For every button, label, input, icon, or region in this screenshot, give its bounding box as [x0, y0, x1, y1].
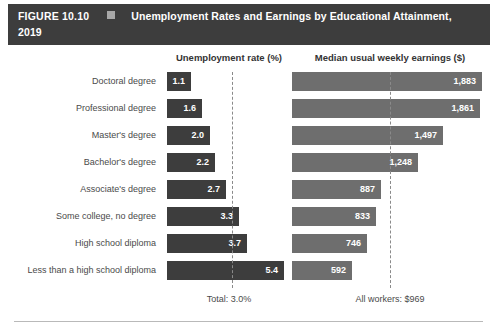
earnings-average-reference-line — [390, 72, 391, 288]
figure-header-bar: FIGURE 10.10 Unemployment Rates and Earn… — [8, 4, 490, 45]
figure-title-line-2: 2019 — [18, 26, 480, 40]
unemployment-bar: 5.4 — [167, 261, 284, 280]
unemployment-total-label: Total: 3.0% — [167, 294, 291, 304]
unemployment-bar: 2.0 — [167, 126, 210, 145]
chart-row: Some college, no degree3.3833 — [0, 207, 497, 226]
category-label: Doctoral degree — [0, 72, 156, 91]
category-label: Some college, no degree — [0, 207, 156, 226]
unemployment-bar: 3.7 — [167, 234, 247, 253]
chart-row: High school diploma3.7746 — [0, 234, 497, 253]
category-label: High school diploma — [0, 234, 156, 253]
column-heading-earnings: Median usual weekly earnings ($) — [292, 52, 488, 63]
column-heading-unemployment: Unemployment rate (%) — [167, 52, 291, 63]
earnings-total-label: All workers: $969 — [292, 294, 488, 304]
category-label: Bachelor's degree — [0, 153, 156, 172]
earnings-bar: 746 — [292, 234, 367, 253]
figure-title-line-1: Unemployment Rates and Earnings by Educa… — [131, 10, 451, 24]
bottom-divider — [14, 321, 483, 322]
unemployment-bar: 1.1 — [167, 72, 191, 91]
earnings-bar: 1,861 — [292, 99, 480, 118]
figure-number: FIGURE 10.10 — [18, 10, 89, 22]
column-headings: Unemployment rate (%) Median usual weekl… — [0, 52, 497, 66]
unemployment-bar: 1.6 — [167, 99, 202, 118]
chart-row: Professional degree1.61,861 — [0, 99, 497, 118]
earnings-bar: 592 — [292, 261, 352, 280]
unemployment-average-reference-line — [232, 72, 233, 288]
earnings-bar: 1,883 — [292, 72, 482, 91]
chart-row: Bachelor's degree2.21,248 — [0, 153, 497, 172]
square-bullet-icon — [107, 11, 115, 19]
category-label: Master's degree — [0, 126, 156, 145]
earnings-bar: 1,497 — [292, 126, 443, 145]
unemployment-bar: 3.3 — [167, 207, 239, 226]
unemployment-bar: 2.2 — [167, 153, 215, 172]
figure-header-line: FIGURE 10.10 Unemployment Rates and Earn… — [18, 10, 480, 24]
chart-row: Associate's degree2.7887 — [0, 180, 497, 199]
unemployment-bar: 2.7 — [167, 180, 226, 199]
category-label: Professional degree — [0, 99, 156, 118]
earnings-bar: 1,248 — [292, 153, 418, 172]
earnings-bar: 833 — [292, 207, 376, 226]
chart-row: Doctoral degree1.11,883 — [0, 72, 497, 91]
earnings-bar: 887 — [292, 180, 381, 199]
category-label: Associate's degree — [0, 180, 156, 199]
chart-row: Master's degree2.01,497 — [0, 126, 497, 145]
chart-row: Less than a high school diploma5.4592 — [0, 261, 497, 280]
chart-plot-area: Doctoral degree1.11,883Professional degr… — [0, 72, 497, 288]
category-label: Less than a high school diploma — [0, 261, 156, 280]
